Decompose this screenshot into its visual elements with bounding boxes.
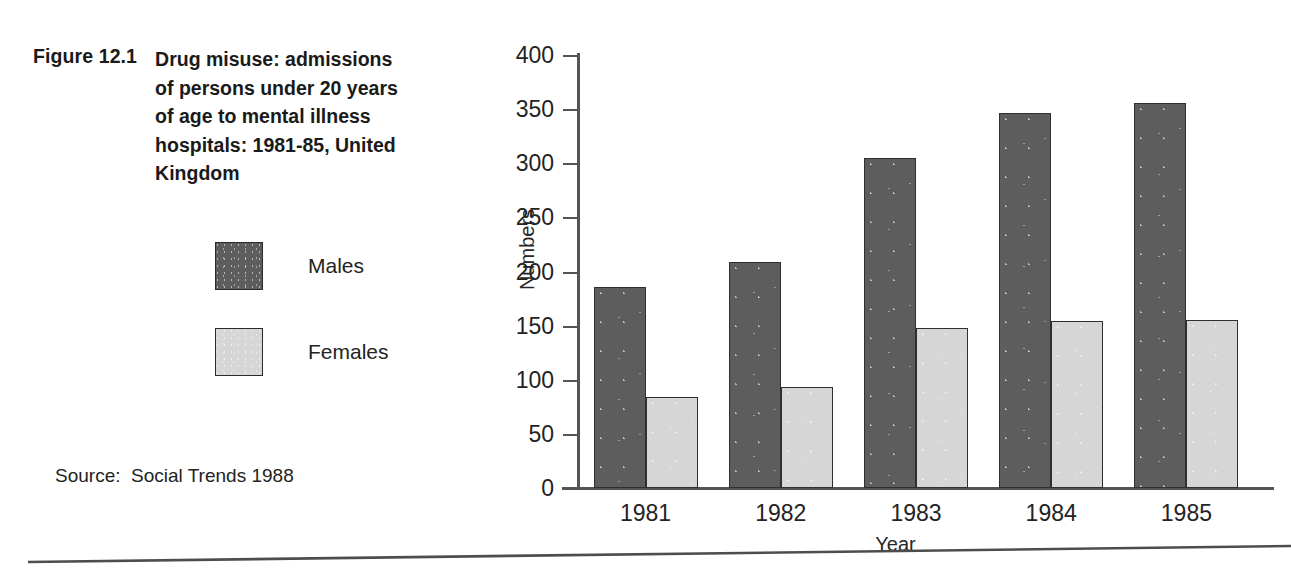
- y-axis-tick: 50: [563, 434, 578, 436]
- legend-swatch-females: [215, 328, 263, 376]
- x-axis-title: Year: [500, 533, 1291, 556]
- bar-males-1982: [729, 262, 781, 488]
- bar-females-1981: [646, 397, 698, 488]
- y-axis-tick-label: 250: [516, 204, 554, 231]
- chart-legend: Males Females: [215, 240, 389, 412]
- y-axis-tick-label: 0: [541, 475, 554, 502]
- figure-description-panel: Figure 12.1 Drug misuse: admissions of p…: [0, 0, 500, 574]
- bar-females-1982: [781, 387, 833, 488]
- legend-label-males: Males: [308, 254, 364, 278]
- y-axis-tick: 100: [563, 380, 578, 382]
- x-axis-tick-label-1985: 1985: [1119, 500, 1254, 527]
- y-axis-tick: 150: [563, 326, 578, 328]
- legend-item-females: Females: [215, 326, 389, 378]
- y-axis-tick-label: 300: [516, 150, 554, 177]
- bar-males-1983: [864, 158, 916, 488]
- y-axis-tick: 300: [563, 163, 578, 165]
- x-axis-tick-label-1981: 1981: [578, 500, 713, 527]
- figure-title: Drug misuse: admissions of persons under…: [155, 45, 405, 188]
- y-axis-tick: 250: [563, 217, 578, 219]
- bar-males-1984: [999, 113, 1051, 488]
- plot-area: 400350300250200150100500: [578, 55, 1254, 488]
- y-axis-tick-label: 200: [516, 259, 554, 286]
- y-axis-tick: 400: [563, 55, 578, 57]
- y-axis-tick: 350: [563, 109, 578, 111]
- x-axis-tick-label-1984: 1984: [984, 500, 1119, 527]
- legend-label-females: Females: [308, 340, 389, 364]
- bar-males-1981: [594, 287, 646, 488]
- y-axis-tick-label: 400: [516, 42, 554, 69]
- x-axis-tick-label-1982: 1982: [713, 500, 848, 527]
- bar-females-1983: [916, 328, 968, 488]
- bar-females-1984: [1051, 321, 1103, 488]
- y-axis-tick-label: 150: [516, 313, 554, 340]
- y-axis-tick-label: 50: [528, 421, 554, 448]
- y-axis-tick: 200: [563, 272, 578, 274]
- bar-males-1985: [1134, 103, 1186, 488]
- y-axis-tick: 0: [563, 488, 578, 490]
- y-axis-tick-label: 350: [516, 96, 554, 123]
- bar-chart: Numbers 400350300250200150100500 Year 19…: [500, 0, 1291, 574]
- figure-number: Figure 12.1: [33, 45, 155, 68]
- y-axis-tick-label: 100: [516, 367, 554, 394]
- figure-heading: Figure 12.1 Drug misuse: admissions of p…: [33, 45, 483, 188]
- bar-females-1985: [1186, 320, 1238, 488]
- legend-item-males: Males: [215, 240, 389, 292]
- legend-swatch-males: [215, 242, 263, 290]
- source-note: Source: Social Trends 1988: [55, 465, 294, 487]
- x-axis-tick-label-1983: 1983: [848, 500, 983, 527]
